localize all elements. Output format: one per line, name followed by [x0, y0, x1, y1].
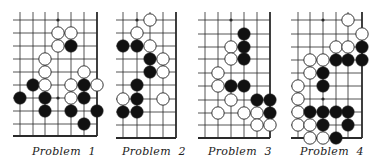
- white-stone: [225, 53, 237, 65]
- black-stone: [131, 93, 143, 105]
- white-stone: [304, 119, 316, 131]
- white-stone: [264, 119, 276, 131]
- hoshi-point: [135, 18, 138, 21]
- black-stone: [65, 40, 77, 52]
- go-boards-canvas: [0, 0, 380, 166]
- black-stone: [238, 28, 250, 40]
- black-stone: [356, 54, 368, 66]
- caption-problem-3: Problem 3: [208, 145, 272, 158]
- black-stone: [117, 106, 129, 118]
- white-stone: [52, 27, 64, 39]
- black-stone: [131, 40, 143, 52]
- white-stone: [317, 54, 329, 66]
- white-stone: [292, 119, 304, 131]
- black-stone: [78, 118, 90, 130]
- white-stone: [212, 67, 224, 79]
- white-stone: [342, 41, 354, 53]
- white-stone: [238, 107, 250, 119]
- white-stone: [52, 40, 64, 52]
- black-stone: [356, 41, 368, 53]
- white-stone: [304, 54, 316, 66]
- go-board-problem-2: [116, 12, 176, 138]
- white-stone: [39, 66, 51, 78]
- hoshi-point: [321, 97, 324, 100]
- white-stone: [356, 28, 368, 40]
- black-stone: [238, 53, 250, 65]
- white-stone: [131, 27, 143, 39]
- white-stone: [144, 14, 156, 26]
- white-stone: [65, 92, 77, 104]
- black-stone: [14, 92, 26, 104]
- black-stone: [39, 92, 51, 104]
- black-stone: [27, 79, 39, 91]
- black-stone: [330, 54, 342, 66]
- black-stone: [238, 41, 250, 53]
- black-stone: [317, 106, 329, 118]
- white-stone: [39, 53, 51, 65]
- hoshi-point: [321, 18, 324, 21]
- black-stone: [238, 80, 250, 92]
- black-stone: [78, 92, 90, 104]
- white-stone: [117, 93, 129, 105]
- white-stone: [251, 119, 263, 131]
- white-stone: [317, 132, 329, 144]
- black-stone: [39, 105, 51, 117]
- black-stone: [144, 53, 156, 65]
- white-stone: [304, 67, 316, 79]
- white-stone: [342, 14, 354, 26]
- black-stone: [117, 40, 129, 52]
- white-stone: [212, 107, 224, 119]
- black-stone: [342, 119, 354, 131]
- white-stone: [292, 80, 304, 92]
- hoshi-point: [56, 96, 59, 99]
- go-board-problem-1: [13, 12, 103, 136]
- white-stone: [330, 41, 342, 53]
- white-stone: [292, 106, 304, 118]
- black-stone: [317, 67, 329, 79]
- white-stone: [157, 53, 169, 65]
- white-stone: [157, 93, 169, 105]
- go-board-problem-3: [198, 12, 276, 138]
- white-stone: [91, 79, 103, 91]
- black-stone: [264, 107, 276, 119]
- black-stone: [317, 80, 329, 92]
- caption-problem-4: Problem 4: [300, 145, 364, 158]
- black-stone: [131, 106, 143, 118]
- white-stone: [212, 80, 224, 92]
- black-stone: [264, 94, 276, 106]
- white-stone: [225, 94, 237, 106]
- black-stone: [65, 105, 77, 117]
- white-stone: [65, 79, 77, 91]
- white-stone: [157, 66, 169, 78]
- white-stone: [292, 93, 304, 105]
- white-stone: [65, 27, 77, 39]
- hoshi-point: [56, 18, 59, 21]
- black-stone: [91, 105, 103, 117]
- white-stone: [144, 40, 156, 52]
- black-stone: [78, 79, 90, 91]
- white-stone: [251, 107, 263, 119]
- white-stone: [225, 41, 237, 53]
- black-stone: [342, 54, 354, 66]
- black-stone: [330, 106, 342, 118]
- black-stone: [330, 132, 342, 144]
- caption-problem-2: Problem 2: [122, 145, 186, 158]
- go-board-problem-4: [291, 12, 368, 144]
- black-stone: [225, 80, 237, 92]
- black-stone: [144, 66, 156, 78]
- white-stone: [78, 66, 90, 78]
- black-stone: [131, 79, 143, 91]
- black-stone: [304, 106, 316, 118]
- black-stone: [342, 106, 354, 118]
- black-stone: [317, 119, 329, 131]
- hoshi-point: [229, 18, 232, 21]
- white-stone: [304, 132, 316, 144]
- white-stone: [39, 79, 51, 91]
- caption-problem-1: Problem 1: [32, 145, 96, 158]
- black-stone: [251, 94, 263, 106]
